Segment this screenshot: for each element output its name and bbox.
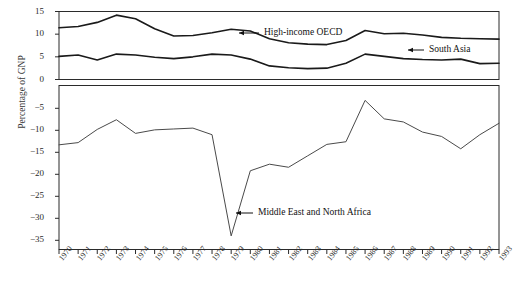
series-line-south-asia [59, 54, 499, 69]
y-tick-marks [55, 12, 59, 241]
arrow-south-asia [408, 48, 424, 53]
series-label-south-asia: South Asia [429, 44, 470, 54]
series-label-middle-east-north-africa: Middle East and North Africa [258, 207, 371, 217]
series-label-high-income-oecd: High-income OECD [264, 27, 342, 37]
x-tick-marks [59, 250, 499, 255]
